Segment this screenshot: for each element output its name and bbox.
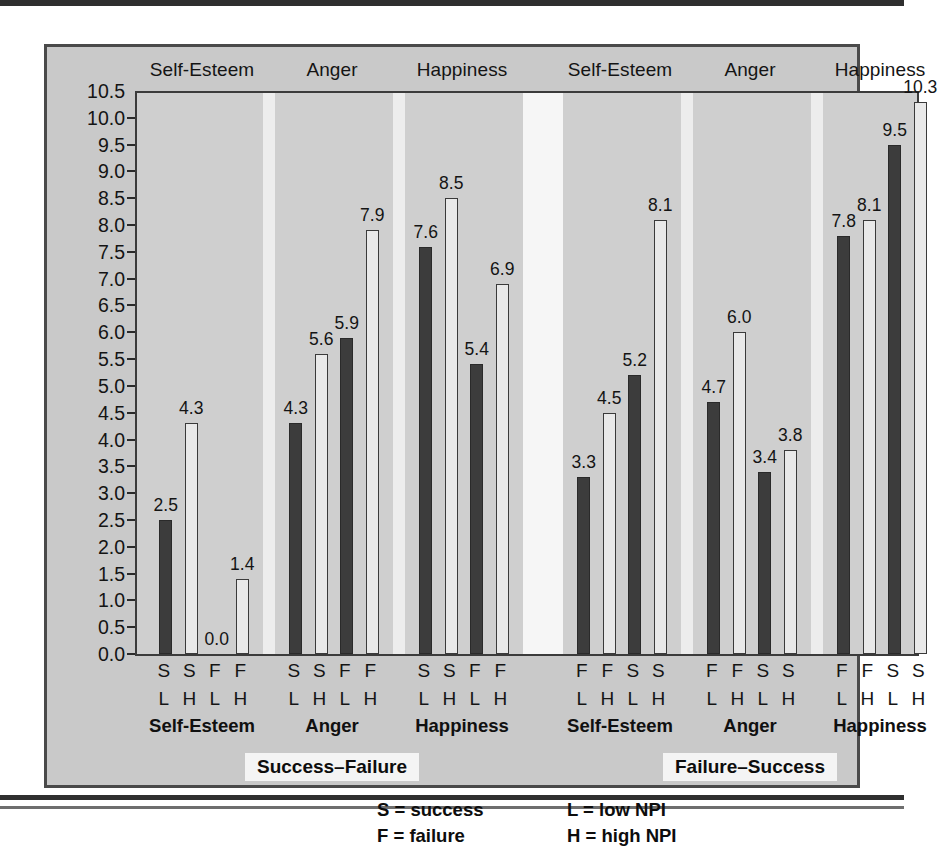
group-divider <box>393 93 405 654</box>
bar-value-label: 5.9 <box>335 313 359 334</box>
y-axis-tick-label: 5.0 <box>98 374 125 397</box>
legend-entry: L = low NPI <box>567 797 676 823</box>
bar-value-label: 1.4 <box>230 554 254 575</box>
bar <box>914 102 927 654</box>
y-axis-tick-label: 2.5 <box>98 508 125 531</box>
bar <box>577 477 590 654</box>
legend-entry: S = success <box>377 797 483 823</box>
measure-label: Happiness <box>415 715 509 737</box>
bar <box>315 354 328 654</box>
y-axis-tick-label: 9.0 <box>98 160 125 183</box>
y-axis-tick-label: 4.5 <box>98 401 125 424</box>
x-tick-npi: H <box>182 688 196 710</box>
y-axis-tick-label: 2.0 <box>98 535 125 558</box>
bar <box>366 230 379 654</box>
x-tick-outcome: F <box>836 660 848 682</box>
bar <box>185 423 198 654</box>
x-tick-outcome: F <box>494 660 506 682</box>
x-tick-outcome: F <box>209 660 221 682</box>
bar-value-label: 0.0 <box>205 629 229 650</box>
x-tick-outcome: S <box>157 660 170 682</box>
x-axis-measure-labels: Self-EsteemAngerHappinessSelf-EsteemAnge… <box>135 715 919 743</box>
bar-value-label: 5.2 <box>623 350 647 371</box>
group-divider <box>811 93 823 654</box>
bar-value-label: 5.6 <box>309 329 333 350</box>
legend-column: L = low NPIH = high NPI <box>567 797 676 849</box>
bar-value-label: 2.5 <box>154 495 178 516</box>
bar-value-label: 3.4 <box>753 447 777 468</box>
facet-header: Anger <box>691 59 809 81</box>
bar <box>159 520 172 654</box>
x-tick-npi: H <box>911 688 925 710</box>
bar-value-label: 8.5 <box>439 173 463 194</box>
y-axis-tick-label: 6.5 <box>98 294 125 317</box>
bar <box>628 375 641 654</box>
x-tick-npi: H <box>730 688 744 710</box>
measure-label: Anger <box>723 715 776 737</box>
page-top-rule <box>0 0 904 6</box>
y-axis-tick-label: 9.5 <box>98 133 125 156</box>
x-tick-npi: L <box>209 688 220 710</box>
y-axis-tick-label: 8.0 <box>98 214 125 237</box>
x-tick-npi: H <box>651 688 665 710</box>
bar-value-label: 4.3 <box>179 398 203 419</box>
x-tick-npi: H <box>312 688 326 710</box>
x-tick-outcome: S <box>183 660 196 682</box>
x-tick-outcome: S <box>417 660 430 682</box>
condition-banner: Success–Failure <box>245 753 419 781</box>
y-axis-tick-label: 7.5 <box>98 240 125 263</box>
x-tick-outcome: F <box>469 660 481 682</box>
x-tick-npi: L <box>469 688 480 710</box>
bar-value-label: 6.0 <box>727 307 751 328</box>
y-axis-tick-label: 3.5 <box>98 455 125 478</box>
x-tick-outcome: S <box>912 660 925 682</box>
x-tick-outcome: S <box>443 660 456 682</box>
x-tick-outcome: F <box>731 660 743 682</box>
bar-value-label: 3.3 <box>572 452 596 473</box>
legend-entry: H = high NPI <box>567 823 676 849</box>
bar-value-label: 8.1 <box>857 195 881 216</box>
bar <box>758 472 771 654</box>
x-tick-npi: L <box>158 688 169 710</box>
x-tick-npi: H <box>363 688 377 710</box>
bar <box>236 579 249 654</box>
bar-value-label: 10.3 <box>903 77 937 98</box>
x-tick-npi: L <box>418 688 429 710</box>
bar-value-label: 4.3 <box>284 398 308 419</box>
x-tick-outcome: F <box>601 660 613 682</box>
bar <box>837 236 850 654</box>
bar <box>419 247 432 655</box>
x-tick-outcome: F <box>364 660 376 682</box>
bar <box>603 413 616 654</box>
y-axis-tick-label: 4.0 <box>98 428 125 451</box>
bar <box>445 198 458 654</box>
x-tick-npi: L <box>757 688 768 710</box>
bar-value-label: 4.5 <box>597 388 621 409</box>
condition-banner: Failure–Success <box>663 753 837 781</box>
measure-label: Self-Esteem <box>149 715 255 737</box>
x-tick-npi: H <box>860 688 874 710</box>
bar-value-label: 7.9 <box>360 205 384 226</box>
bar-value-label: 6.9 <box>490 259 514 280</box>
x-tick-npi: L <box>576 688 587 710</box>
y-axis-tick-label: 6.0 <box>98 321 125 344</box>
x-tick-npi: H <box>233 688 247 710</box>
x-tick-npi: L <box>706 688 717 710</box>
group-divider <box>263 93 275 654</box>
bar <box>340 338 353 654</box>
bar <box>289 423 302 654</box>
bar <box>733 332 746 654</box>
x-tick-outcome: S <box>313 660 326 682</box>
measure-label: Happiness <box>833 715 927 737</box>
x-tick-npi: L <box>288 688 299 710</box>
x-tick-outcome: S <box>782 660 795 682</box>
bar <box>784 450 797 654</box>
x-tick-npi: H <box>442 688 456 710</box>
y-axis-tick-label: 10.0 <box>87 106 125 129</box>
x-tick-outcome: F <box>339 660 351 682</box>
measure-label: Self-Esteem <box>567 715 673 737</box>
facet-header: Self-Esteem <box>143 59 261 81</box>
x-tick-npi: L <box>339 688 350 710</box>
measure-label: Anger <box>305 715 358 737</box>
x-tick-outcome: S <box>756 660 769 682</box>
